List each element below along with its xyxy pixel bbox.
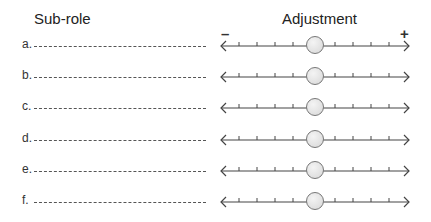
sub-role-blank-line[interactable] (34, 140, 206, 141)
sub-role-label: b. (22, 68, 32, 82)
sub-role-blank-line[interactable] (34, 46, 206, 47)
sub-role-label: e. (22, 162, 32, 176)
adjustment-slider[interactable] (219, 65, 411, 87)
sub-role-blank-line[interactable] (34, 77, 206, 78)
sub-role-label: d. (22, 131, 32, 145)
adjustment-slider[interactable] (219, 190, 411, 212)
adjustment-slider[interactable] (219, 128, 411, 150)
sub-role-blank-line[interactable] (34, 108, 206, 109)
sub-role-label: c. (22, 99, 31, 113)
slider-knob (307, 99, 324, 116)
adjustment-header: Adjustment (282, 10, 357, 27)
sub-role-blank-line[interactable] (34, 171, 206, 172)
adjustment-slider[interactable] (219, 159, 411, 181)
slider-knob (307, 162, 324, 179)
sub-role-label: a. (22, 37, 32, 51)
adjustment-slider[interactable] (219, 96, 411, 118)
slider-knob (307, 131, 324, 148)
slider-knob (307, 193, 324, 210)
sub-role-header: Sub-role (34, 10, 91, 27)
sub-role-blank-line[interactable] (34, 202, 206, 203)
sub-role-label: f. (22, 193, 29, 207)
slider-knob (307, 37, 324, 54)
slider-knob (307, 68, 324, 85)
adjustment-slider[interactable] (219, 34, 411, 56)
